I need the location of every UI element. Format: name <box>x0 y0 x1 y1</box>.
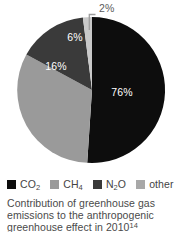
chart-legend: CO2 CH4 N2O other <box>7 176 191 192</box>
caption-footnote-marker: 14 <box>130 221 138 230</box>
figure-caption: Contribution of greenhouse gas emissions… <box>7 197 187 232</box>
legend-swatch-co2-icon <box>7 180 16 189</box>
legend-swatch-n2o-icon <box>93 180 102 189</box>
caption-line-2: emissions to the anthropogenic <box>7 209 154 221</box>
pie-label-n2o: 6% <box>67 31 83 43</box>
legend-label-ch4-sub: 4 <box>79 183 83 192</box>
legend-item-ch4: CH4 <box>50 179 83 190</box>
legend-label-other: other <box>149 179 173 190</box>
legend-label-n2o-base: N <box>106 178 114 190</box>
pie-chart-area: 76% 16% 6% 2% <box>0 0 191 172</box>
caption-line-3: greenhouse effect in 2010 <box>7 221 130 232</box>
legend-label-n2o: N2O <box>106 179 126 190</box>
legend-label-co2: CO2 <box>20 179 40 190</box>
legend-swatch-ch4-icon <box>50 180 59 189</box>
pie-label-co2: 76% <box>111 86 133 98</box>
legend-label-ch4-base: CH <box>63 178 78 190</box>
legend-label-co2-sub: 2 <box>36 183 40 192</box>
legend-item-co2: CO2 <box>7 179 40 190</box>
legend-swatch-other-icon <box>136 180 145 189</box>
greenhouse-gas-pie-figure: 76% 16% 6% 2% CO2 CH4 N2O other Contribu… <box>0 0 191 232</box>
legend-item-other: other <box>136 179 173 190</box>
legend-item-n2o: N2O <box>93 179 126 190</box>
pie-label-other: 2% <box>99 2 115 14</box>
pie-chart-svg: 76% 16% 6% 2% <box>0 0 191 172</box>
legend-label-n2o-sub: 2 <box>114 183 118 192</box>
caption-line-1: Contribution of greenhouse gas <box>7 197 155 209</box>
legend-label-n2o-tail: O <box>118 178 126 190</box>
pie-label-ch4: 16% <box>45 60 67 72</box>
legend-label-co2-base: CO <box>20 178 36 190</box>
legend-label-ch4: CH4 <box>63 179 83 190</box>
